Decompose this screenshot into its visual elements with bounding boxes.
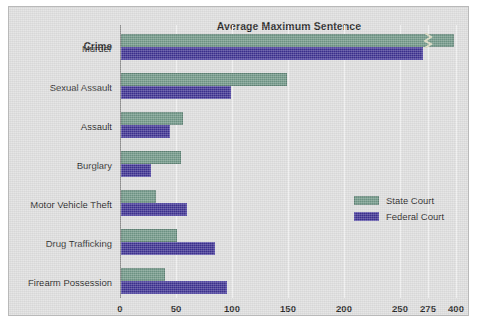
x-tick-label-250: 250	[392, 303, 408, 314]
x-tick-label-50: 50	[171, 303, 182, 314]
bar-sexual-assault-federal-court	[121, 86, 231, 99]
legend-label-state-court: State Court	[386, 195, 434, 206]
category-label-drug-trafficking: Drug Trafficking	[9, 238, 112, 249]
gridline-275	[428, 25, 429, 298]
bar-firearm-possession-state-court	[121, 268, 165, 281]
x-tick-label-150: 150	[280, 303, 296, 314]
bar-murder-state-court	[121, 34, 454, 47]
bar-motor-vehicle-theft-state-court	[121, 190, 156, 203]
category-label-sexual-assault: Sexual Assault	[9, 82, 112, 93]
bar-murder-federal-court	[121, 47, 423, 60]
gridline-250	[400, 25, 401, 298]
x-tick-label-400: 400	[448, 303, 464, 314]
bar-assault-state-court	[121, 112, 183, 125]
x-tick-label-200: 200	[336, 303, 352, 314]
gridline-200	[344, 25, 345, 298]
category-label-assault: Assault	[9, 121, 112, 132]
plot-area	[120, 25, 456, 298]
bar-firearm-possession-federal-court	[121, 281, 227, 294]
x-tick-label-275: 275	[420, 303, 436, 314]
legend-swatch-state-court-icon	[354, 196, 379, 205]
legend-label-federal-court: Federal Court	[386, 211, 444, 222]
gridline-400	[456, 25, 457, 298]
x-tick-label-100: 100	[224, 303, 240, 314]
legend-swatch-federal-court-icon	[354, 212, 379, 221]
chart-screenshot: Average Maximum Sentence (in Months) Cri…	[0, 0, 479, 330]
bar-burglary-state-court	[121, 151, 181, 164]
bar-burglary-federal-court	[121, 164, 151, 177]
gridline-150	[288, 25, 289, 298]
legend-item-state-court: State Court	[354, 193, 444, 207]
chart-legend: State Court Federal Court	[354, 193, 444, 225]
category-label-murder: Murder	[9, 43, 112, 54]
x-tick-label-0: 0	[117, 303, 122, 314]
gridline-100	[232, 25, 233, 298]
category-label-firearm-possession: Firearm Possession	[9, 277, 112, 288]
chart-plate: Average Maximum Sentence (in Months) Cri…	[8, 6, 469, 316]
legend-item-federal-court: Federal Court	[354, 209, 444, 223]
bar-drug-trafficking-state-court	[121, 229, 177, 242]
bar-sexual-assault-state-court	[121, 73, 287, 86]
category-label-burglary: Burglary	[9, 160, 112, 171]
category-label-motor-vehicle-theft: Motor Vehicle Theft	[9, 199, 112, 210]
bar-motor-vehicle-theft-federal-court	[121, 203, 187, 216]
bar-drug-trafficking-federal-court	[121, 242, 215, 255]
bar-assault-federal-court	[121, 125, 170, 138]
